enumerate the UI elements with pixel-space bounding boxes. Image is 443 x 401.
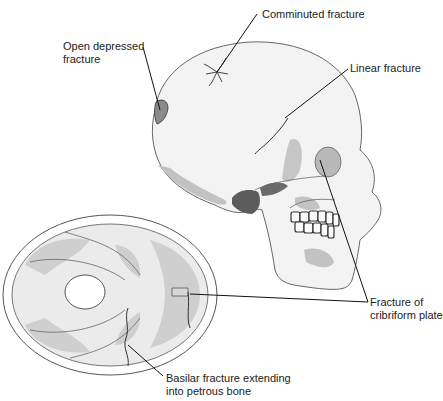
label-cribriform-fracture: Fracture of cribriform plate — [370, 296, 443, 322]
label-linear-fracture: Linear fracture — [350, 62, 421, 75]
orbit — [315, 147, 341, 177]
label-open-depressed-fracture: Open depressed fracture — [63, 40, 144, 66]
label-cribriform-line1: Fracture of — [370, 296, 443, 309]
label-basilar-line1: Basilar fracture extending — [166, 372, 291, 385]
leader-open-depressed — [143, 47, 160, 110]
label-open-depressed-line2: fracture — [63, 53, 144, 66]
cribriform-plate — [172, 288, 188, 296]
label-open-depressed-line1: Open depressed — [63, 40, 144, 53]
label-basilar-fracture: Basilar fracture extending into petrous … — [166, 372, 291, 398]
label-basilar-line2: into petrous bone — [166, 385, 291, 398]
label-comminuted-fracture: Comminuted fracture — [262, 8, 365, 21]
label-cribriform-line2: cribriform plate — [370, 309, 443, 322]
skull-base — [3, 215, 217, 375]
foramen-magnum — [65, 275, 105, 309]
